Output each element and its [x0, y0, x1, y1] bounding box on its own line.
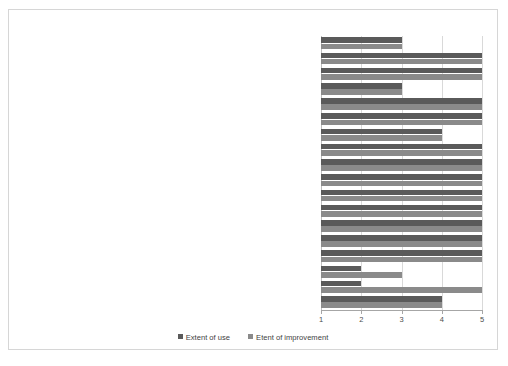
bar-extent-of-use: [321, 296, 442, 302]
legend-swatch-icon: [248, 334, 253, 339]
bar-extent-of-use: [321, 174, 482, 180]
chart-row: Price investigation plans: [321, 203, 482, 218]
x-tick-label-2: 2: [351, 315, 371, 324]
chart-row: Housekeeping strategy: [321, 112, 482, 127]
chart-legend: Extent of useEtent of improvement: [9, 332, 497, 342]
chart-row: Audit plan /schedule: [321, 264, 482, 279]
bar-etent-of-improvement: [321, 272, 402, 278]
plot-area: Building maintenance plansDocumentation …: [321, 36, 482, 310]
bar-etent-of-improvement: [321, 181, 482, 187]
chart-row: Tender/contracts committee: [321, 173, 482, 188]
bar-etent-of-improvement: [321, 135, 442, 141]
x-tick-2: [361, 310, 362, 314]
bar-extent-of-use: [321, 129, 442, 135]
chart-row: Tender procedures: [321, 188, 482, 203]
bar-etent-of-improvement: [321, 74, 482, 80]
x-tick-5: [482, 310, 483, 314]
bar-extent-of-use: [321, 159, 482, 165]
chart-row: Financial accounting system (book keepin…: [321, 280, 482, 295]
x-tick-label-1: 1: [311, 315, 331, 324]
chart-row: Cash administration system: [321, 234, 482, 249]
bar-etent-of-improvement: [321, 104, 482, 110]
bar-etent-of-improvement: [321, 165, 482, 171]
bar-etent-of-improvement: [321, 257, 482, 263]
bar-extent-of-use: [321, 281, 361, 287]
bar-extent-of-use: [321, 220, 482, 226]
x-tick-label-3: 3: [392, 315, 412, 324]
x-tick-1: [321, 310, 322, 314]
x-tick-3: [402, 310, 403, 314]
bar-extent-of-use: [321, 53, 482, 59]
chart-row: Purchasing (procurement) strategy: [321, 219, 482, 234]
bar-etent-of-improvement: [321, 196, 482, 202]
bar-etent-of-improvement: [321, 44, 402, 50]
chart-row: ICT systems (hardware and software): [321, 97, 482, 112]
chart-row: Transport management plans: [321, 66, 482, 81]
chart-row: Financial reporting frameworks (cash flo…: [321, 249, 482, 264]
bar-extent-of-use: [321, 37, 402, 43]
bar-etent-of-improvement: [321, 150, 482, 156]
legend-item-1: Extent of use: [178, 332, 230, 342]
legend-item-2: Etent of improvement: [248, 332, 328, 342]
gridline-5: [482, 36, 483, 310]
chart-row: Purchasing committee: [321, 158, 482, 173]
x-tick-label-4: 4: [432, 315, 452, 324]
bar-etent-of-improvement: [321, 211, 482, 217]
bar-extent-of-use: [321, 190, 482, 196]
bar-etent-of-improvement: [321, 241, 482, 247]
x-tick-label-5: 5: [472, 315, 492, 324]
bar-etent-of-improvement: [321, 89, 402, 95]
bar-etent-of-improvement: [321, 302, 442, 308]
bar-etent-of-improvement: [321, 287, 482, 293]
bar-extent-of-use: [321, 235, 482, 241]
bar-extent-of-use: [321, 113, 482, 119]
bar-etent-of-improvement: [321, 226, 482, 232]
bar-extent-of-use: [321, 205, 482, 211]
bar-extent-of-use: [321, 68, 482, 74]
bar-extent-of-use: [321, 266, 361, 272]
bar-etent-of-improvement: [321, 59, 482, 65]
chart-row: Office site (compounds, access roads and…: [321, 82, 482, 97]
chart-row: Facility management policy: [321, 127, 482, 142]
bar-extent-of-use: [321, 144, 482, 150]
chart-row: Budget planning and monitoring procedure…: [321, 295, 482, 310]
bar-extent-of-use: [321, 98, 482, 104]
bar-extent-of-use: [321, 250, 482, 256]
bar-extent-of-use: [321, 83, 402, 89]
chart-row: Documentation strategy: [321, 51, 482, 66]
legend-label: Extent of use: [186, 333, 230, 342]
legend-label: Etent of improvement: [256, 333, 328, 342]
legend-swatch-icon: [178, 334, 183, 339]
chart-row: Building maintenance plans: [321, 36, 482, 51]
bar-etent-of-improvement: [321, 120, 482, 126]
chart-row: Procedures to manage stores (monitor sto…: [321, 143, 482, 158]
chart-frame: Building maintenance plansDocumentation …: [8, 9, 498, 350]
x-tick-4: [442, 310, 443, 314]
